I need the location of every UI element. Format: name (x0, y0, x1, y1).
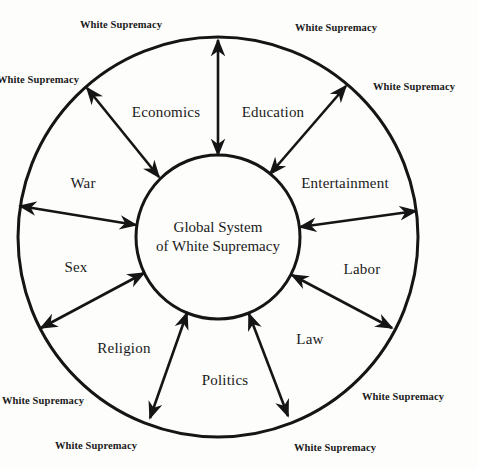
sector-label-sex: Sex (64, 259, 87, 276)
sector-label-education: Education (242, 104, 305, 121)
outer-label-lower-left: White Supremacy (2, 395, 84, 406)
outer-label-top-left: White Supremacy (80, 19, 162, 30)
sector-label-labor: Labor (344, 261, 381, 278)
arrow-sex-war (20, 206, 136, 225)
outer-label-lower-right: White Supremacy (362, 391, 444, 402)
sector-label-religion: Religion (97, 340, 150, 357)
sector-label-war: War (70, 175, 95, 192)
arrow-entertainment-labor (300, 211, 416, 227)
arrow-religion-sex (41, 273, 144, 328)
center-label-line1: Global System (156, 218, 280, 237)
outer-label-top-right: White Supremacy (295, 22, 377, 33)
sector-label-politics: Politics (202, 372, 249, 389)
outer-label-upper-left: White Supremacy (0, 74, 79, 85)
sector-label-entertainment: Entertainment (301, 175, 389, 192)
center-label-line2: of White Supremacy (156, 237, 280, 256)
outer-label-upper-right: White Supremacy (373, 81, 455, 92)
center-label: Global System of White Supremacy (156, 218, 280, 256)
outer-label-bottom-left: White Supremacy (55, 440, 137, 451)
arrow-war-economics (87, 88, 159, 177)
arrow-law-politics (249, 314, 288, 416)
sector-label-economics: Economics (132, 104, 200, 121)
arrow-education-entertainment (270, 86, 346, 174)
sector-label-law: Law (296, 331, 323, 348)
arrow-politics-religion (150, 313, 187, 418)
arrow-labor-law (292, 275, 392, 328)
outer-label-bottom-right: White Supremacy (294, 442, 376, 453)
